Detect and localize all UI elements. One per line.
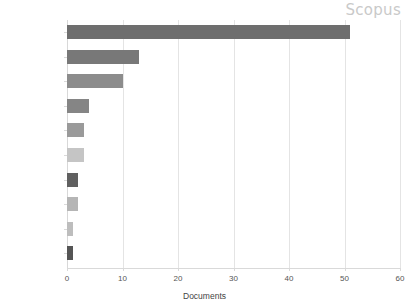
bar[interactable] xyxy=(67,173,78,187)
x-axis-title: Documents xyxy=(0,291,409,301)
x-axis-tick-label: 50 xyxy=(330,274,360,283)
y-axis-tick xyxy=(64,106,67,107)
y-axis-tick xyxy=(64,229,67,230)
y-axis-tick xyxy=(64,57,67,58)
y-axis-tick xyxy=(64,155,67,156)
scopus-bar-chart: Scopus South AfricaUnited StatesUnited K… xyxy=(0,0,409,307)
bar-row[interactable]: Sweden xyxy=(67,192,400,217)
bar[interactable] xyxy=(67,197,78,211)
bar[interactable] xyxy=(67,222,73,236)
x-axis-tick xyxy=(234,268,235,271)
bar-row[interactable]: Norway xyxy=(67,143,400,168)
bar[interactable] xyxy=(67,99,89,113)
y-axis-tick xyxy=(64,180,67,181)
x-axis-tick-label: 0 xyxy=(52,274,82,283)
bar-row[interactable]: Denmark xyxy=(67,168,400,193)
y-axis-tick xyxy=(64,130,67,131)
bar[interactable] xyxy=(67,246,73,260)
plot-area: South AfricaUnited StatesUnited KingdomN… xyxy=(67,20,400,268)
bar-row[interactable]: Brazil xyxy=(67,217,400,242)
y-axis-tick xyxy=(64,253,67,254)
x-axis-tick xyxy=(123,268,124,271)
bar-row[interactable]: Netherlands xyxy=(67,94,400,119)
bar-row[interactable]: South Africa xyxy=(67,20,400,45)
bar[interactable] xyxy=(67,25,350,39)
bar-row[interactable]: United States xyxy=(67,45,400,70)
y-axis-tick xyxy=(64,32,67,33)
bar[interactable] xyxy=(67,148,84,162)
bar-row[interactable]: Canada xyxy=(67,241,400,266)
bar[interactable] xyxy=(67,74,123,88)
x-axis-tick-label: 30 xyxy=(219,274,249,283)
x-axis-tick xyxy=(67,268,68,271)
x-axis-tick xyxy=(289,268,290,271)
bar-row[interactable]: United Kingdom xyxy=(67,69,400,94)
x-axis-tick-label: 20 xyxy=(163,274,193,283)
y-axis-tick xyxy=(64,81,67,82)
gridline xyxy=(400,20,401,268)
x-axis-tick xyxy=(400,268,401,271)
x-axis-tick xyxy=(345,268,346,271)
scopus-watermark: Scopus xyxy=(345,1,401,19)
x-axis-tick-label: 10 xyxy=(108,274,138,283)
x-axis-tick-label: 40 xyxy=(274,274,304,283)
x-axis-tick-label: 60 xyxy=(385,274,409,283)
bar[interactable] xyxy=(67,123,84,137)
bar[interactable] xyxy=(67,50,139,64)
x-axis-tick xyxy=(178,268,179,271)
bar-row[interactable]: Australia xyxy=(67,118,400,143)
y-axis-tick xyxy=(64,204,67,205)
